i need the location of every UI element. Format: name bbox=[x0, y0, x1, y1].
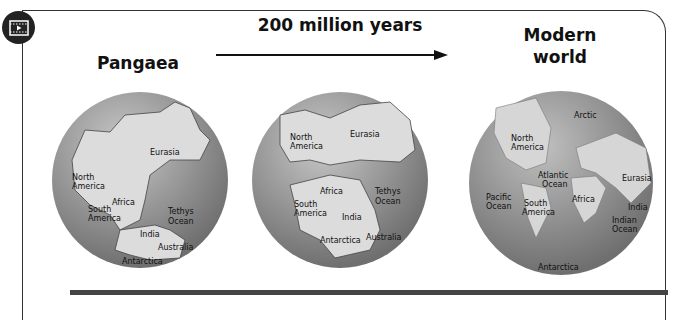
timespan-label: 200 million years bbox=[240, 14, 440, 36]
svg-text:Ocean: Ocean bbox=[168, 217, 194, 226]
svg-text:America: America bbox=[294, 209, 327, 218]
svg-text:South: South bbox=[294, 200, 317, 209]
svg-text:South: South bbox=[524, 199, 547, 208]
svg-text:Africa: Africa bbox=[112, 198, 135, 207]
svg-text:Tethys: Tethys bbox=[374, 187, 401, 196]
play-video-button[interactable] bbox=[2, 11, 35, 44]
globe-modern-world: Arctic North America Atlantic Ocean Eura… bbox=[466, 88, 656, 278]
svg-text:Australia: Australia bbox=[158, 243, 193, 252]
svg-text:Africa: Africa bbox=[320, 187, 343, 196]
svg-text:North: North bbox=[511, 134, 533, 143]
svg-text:Ocean: Ocean bbox=[375, 197, 401, 206]
svg-text:Tethys: Tethys bbox=[167, 207, 194, 216]
pangaea-title: Pangaea bbox=[78, 52, 198, 74]
svg-text:North: North bbox=[290, 133, 312, 142]
svg-text:Ocean: Ocean bbox=[486, 202, 512, 211]
modern-world-title: Modern world bbox=[510, 24, 610, 68]
svg-text:Indian: Indian bbox=[612, 216, 637, 225]
svg-text:South: South bbox=[88, 205, 111, 214]
svg-text:India: India bbox=[628, 203, 648, 212]
svg-text:Eurasia: Eurasia bbox=[350, 130, 380, 139]
svg-text:America: America bbox=[88, 214, 121, 223]
bottom-divider bbox=[70, 290, 668, 295]
svg-text:Ocean: Ocean bbox=[542, 180, 568, 189]
film-play-icon bbox=[9, 20, 29, 36]
svg-text:Atlantic: Atlantic bbox=[538, 171, 568, 180]
svg-text:America: America bbox=[72, 182, 105, 191]
svg-text:India: India bbox=[342, 213, 362, 222]
svg-text:Ocean: Ocean bbox=[612, 225, 638, 234]
svg-text:India: India bbox=[140, 230, 160, 239]
globe-intermediate: North America Eurasia Africa Tethys Ocea… bbox=[250, 90, 430, 270]
svg-text:Australia: Australia bbox=[366, 233, 401, 242]
svg-text:Eurasia: Eurasia bbox=[150, 148, 180, 157]
svg-text:Pacific: Pacific bbox=[486, 193, 511, 202]
svg-text:North: North bbox=[72, 173, 94, 182]
svg-text:Arctic: Arctic bbox=[574, 111, 597, 120]
svg-text:Antarctica: Antarctica bbox=[320, 236, 361, 245]
svg-text:Africa: Africa bbox=[572, 195, 595, 204]
svg-text:America: America bbox=[511, 143, 544, 152]
globe-pangaea: Eurasia North America Africa South Ameri… bbox=[50, 90, 230, 270]
svg-text:Antarctica: Antarctica bbox=[122, 257, 163, 266]
time-arrow-icon bbox=[216, 50, 448, 60]
svg-text:Eurasia: Eurasia bbox=[622, 174, 652, 183]
svg-text:Antarctica: Antarctica bbox=[538, 263, 579, 272]
svg-text:America: America bbox=[290, 142, 323, 151]
svg-text:America: America bbox=[522, 208, 555, 217]
